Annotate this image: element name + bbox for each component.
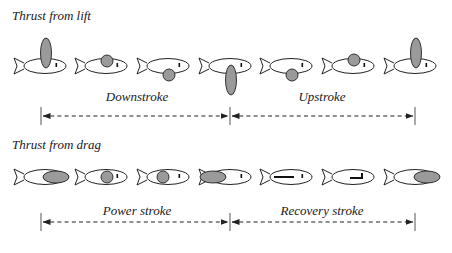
lift-row — [14, 38, 436, 125]
diagram-canvas — [0, 0, 452, 253]
fish-tail — [260, 169, 270, 185]
phase-label-upstroke: Upstroke — [298, 89, 345, 105]
fish-tail — [14, 169, 24, 185]
fish-tail — [322, 169, 332, 185]
fish-eye — [241, 174, 243, 178]
pectoral-fin — [226, 65, 237, 95]
pectoral-fin — [43, 171, 69, 183]
fish — [384, 38, 436, 74]
fish-eye — [56, 63, 58, 67]
pectoral-fin — [41, 38, 52, 68]
fish-tail — [137, 58, 147, 74]
phase-label-recovery-stroke: Recovery stroke — [281, 203, 364, 219]
swimming-thrust-diagram: Thrust from lift Downstroke Upstroke Thr… — [0, 0, 452, 253]
fish — [322, 169, 374, 185]
pectoral-fin — [414, 171, 440, 183]
pectoral-fin — [411, 38, 422, 68]
fish — [199, 58, 251, 95]
fish-tail — [75, 169, 85, 185]
row-title-drag: Thrust from drag — [12, 137, 101, 153]
pectoral-fin — [286, 69, 298, 81]
pectoral-fin — [200, 171, 226, 183]
fish-tail — [137, 169, 147, 185]
fish — [137, 58, 189, 81]
fish — [75, 169, 127, 185]
pectoral-fin — [101, 55, 113, 67]
fish-eye — [426, 63, 428, 67]
fish — [137, 169, 189, 185]
fish-eye — [302, 174, 304, 178]
fish-eye — [117, 174, 119, 178]
row-title-lift: Thrust from lift — [12, 8, 91, 24]
drag-row — [14, 169, 440, 231]
pectoral-fin — [163, 69, 175, 81]
fish-tail — [14, 58, 24, 74]
fish-eye — [117, 63, 119, 67]
fish-tail — [384, 58, 394, 74]
pectoral-fin — [348, 54, 360, 66]
pectoral-fin — [101, 171, 113, 183]
fish — [384, 169, 440, 185]
fish — [75, 55, 127, 74]
fish — [260, 169, 312, 185]
fish-eye — [302, 63, 304, 67]
fish-eye — [179, 174, 181, 178]
phase-label-power-stroke: Power stroke — [103, 203, 171, 219]
fish-eye — [241, 63, 243, 67]
fish-tail — [322, 58, 332, 74]
fish — [199, 169, 251, 185]
fish-eye — [364, 63, 366, 67]
fish-tail — [384, 169, 394, 185]
phase-label-downstroke: Downstroke — [106, 89, 168, 105]
pectoral-fin — [157, 171, 169, 183]
fish-tail — [260, 58, 270, 74]
fish-tail — [75, 58, 85, 74]
fish — [14, 169, 69, 185]
fish — [260, 58, 312, 81]
fish-eye — [179, 63, 181, 67]
fish — [14, 38, 66, 74]
fish-tail — [199, 58, 209, 74]
fish — [322, 54, 374, 74]
phase-arrows — [41, 107, 415, 125]
